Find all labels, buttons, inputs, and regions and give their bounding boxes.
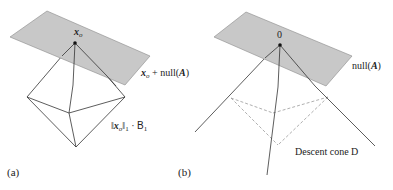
panel-a: xo xo + null(A) ‖xo‖1 · B1 (a)	[7, 11, 189, 179]
label-descent-cone: Descent cone D	[295, 146, 358, 157]
caption-b: (b)	[178, 166, 191, 179]
panel-b: 0 null(A) Descent cone D (b)	[178, 12, 381, 179]
label-l1-ball: ‖xo‖1 · B1	[111, 120, 148, 133]
point-xo	[73, 41, 77, 45]
label-null-space: null(A)	[352, 60, 381, 72]
point-origin	[278, 43, 282, 47]
descent-cone-rays	[195, 58, 375, 175]
label-origin: 0	[277, 29, 282, 40]
figure: xo xo + null(A) ‖xo‖1 · B1 (a)	[0, 0, 393, 190]
caption-a: (a)	[7, 166, 20, 179]
label-affine-plane: xo + null(A)	[140, 67, 189, 80]
dashed-ball	[231, 97, 328, 145]
